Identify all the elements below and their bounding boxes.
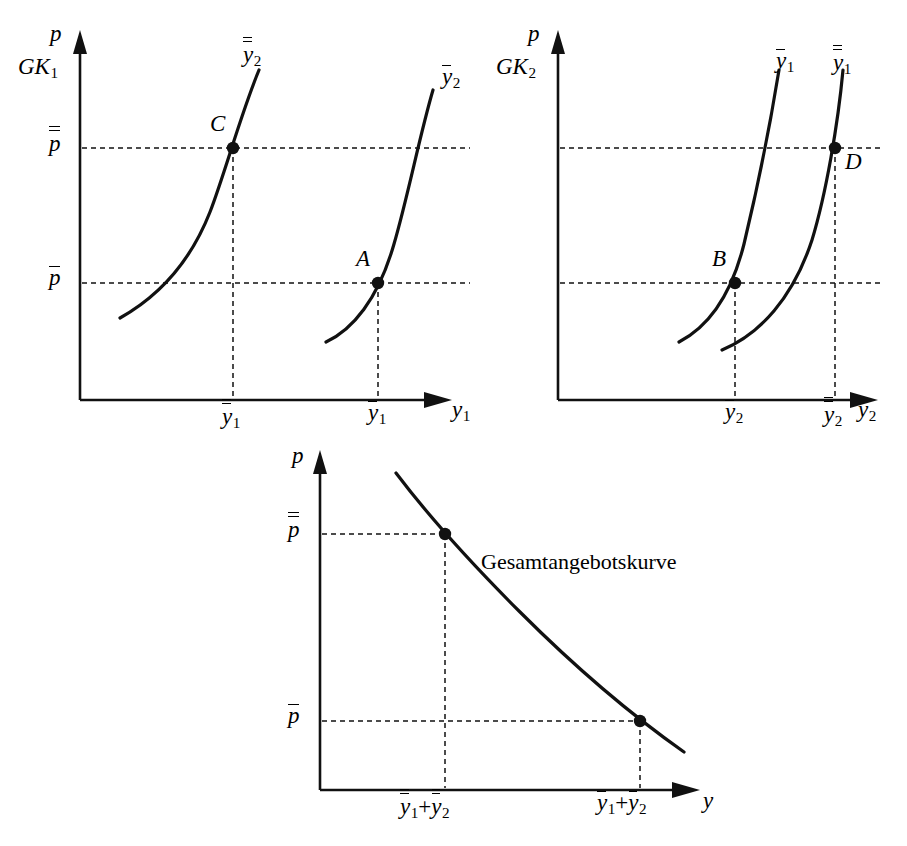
panel-3-x-axis-symbol: y	[703, 789, 713, 812]
panel-2-y-axis-symbol: p	[528, 22, 540, 45]
panel-3-curve-gesamtangebotskurve	[396, 473, 684, 752]
panel-2-point-label-D: D	[845, 150, 862, 173]
panel-2-curve-y1-single-bar	[679, 70, 779, 342]
panel-3-group	[313, 450, 700, 798]
panel-1-curve-label-y2-double-bar: y2	[243, 36, 261, 68]
panel-1-xtick-y1-single-bar: y1	[368, 399, 386, 426]
panel-2-xtick-y2-double-bar: y2	[824, 396, 842, 428]
panel-1-curve-y2-single-bar	[326, 90, 433, 342]
panel-2-curve-label-y1-double-bar: y1	[833, 44, 851, 76]
panel-3-y-axis-symbol: p	[292, 444, 304, 467]
panel-1-xtick-y1-double-bar: y1	[222, 398, 240, 430]
panel-2-point-B	[729, 277, 741, 289]
panel-1-point-C	[227, 142, 239, 154]
panel-2-x-axis-symbol: y2	[858, 398, 876, 423]
panel-2-curve-y1-double-bar	[722, 70, 843, 350]
panel-1-group	[73, 30, 470, 408]
panel-2-point-label-B: B	[712, 247, 726, 270]
panel-3-x-axis-arrow	[672, 782, 700, 798]
panel-1-point-A	[372, 277, 384, 289]
panel-1-y-axis-secondary-symbol: GK1	[18, 55, 58, 80]
panel-1-x-axis-symbol: y1	[452, 398, 470, 423]
panel-3-y-axis-arrow	[313, 450, 327, 474]
panel-2-group	[551, 30, 882, 408]
panel-3-xtick-sum-single-bar: y1+y2	[597, 789, 647, 816]
panel-1-curve-y2-double-bar	[120, 70, 259, 318]
panel-1-y-axis-symbol: p	[50, 22, 62, 45]
panel-3-xtick-sum-double-bar: y1+y2	[400, 788, 450, 820]
panel-1-ytick-p-double-bar: p	[49, 125, 61, 155]
panel-1-point-label-A: A	[356, 247, 370, 270]
panel-2-xtick-y2-single-bar: y2	[725, 398, 743, 425]
panel-1-ytick-p-single-bar: p	[49, 264, 61, 289]
panel-1-y-axis-arrow	[73, 30, 87, 54]
panel-2-y-axis-secondary-symbol: GK2	[496, 55, 536, 80]
panel-2-point-D	[829, 142, 841, 154]
panel-3-ytick-p-double-bar: p	[288, 511, 300, 541]
panel-2-curve-label-y1-single-bar: y1	[776, 47, 794, 74]
panel-3-point-upper	[439, 528, 451, 540]
panel-3-ytick-p-single-bar: p	[288, 702, 300, 727]
panel-3-curve-label: Gesamtangebotskurve	[481, 551, 677, 573]
panel-2-y-axis-arrow	[551, 30, 565, 54]
figure-root: p GK1 p p y1 y1 y1 y2 y2 C A p GK2 y2 y2	[0, 0, 907, 846]
panel-3-point-lower	[634, 715, 646, 727]
panel-1-x-axis-arrow	[424, 392, 452, 408]
panel-1-curve-label-y2-single-bar: y2	[442, 63, 460, 90]
panel-1-point-label-C: C	[210, 112, 225, 135]
